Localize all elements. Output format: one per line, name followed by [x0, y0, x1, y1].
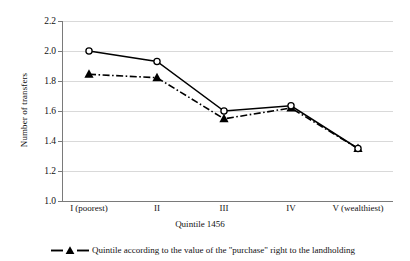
x-tick-label-quintile-3: III [220, 203, 229, 214]
chart-legend: Quintile according to the value of the "… [0, 242, 410, 258]
x-axis-title-wrapper: Quintile 1456 [0, 219, 410, 229]
x-tick-label-quintile-2: II [154, 203, 160, 214]
x-tick-label-quintile-1: I (poorest) [70, 203, 108, 214]
legend-label: Quintile according to the value of the "… [92, 245, 355, 256]
marker-circle-III [221, 108, 227, 114]
marker-circle-I [86, 48, 92, 54]
x-tick-labels: I (poorest) II III IV V (wealthiest) [0, 203, 410, 217]
y-tick-label-2.0: 2.0 [30, 47, 56, 57]
chart-figure: Number of transfers 2.2 2.0 1.8 1.6 1.4 … [0, 0, 410, 261]
legend-entry: Quintile according to the value of the "… [51, 244, 355, 256]
y-tick-label-1.8: 1.8 [30, 77, 56, 87]
marker-circle-IV [288, 103, 294, 109]
y-tick-label-1.6: 1.6 [30, 107, 56, 117]
x-tick-label-quintile-4: IV [286, 203, 296, 214]
legend-marker-dashdot-triangle-icon [51, 244, 89, 256]
x-tick-label-quintile-5: V (wealthiest) [332, 203, 383, 214]
y-tick-label-2.2: 2.2 [30, 17, 56, 27]
y-tick-label-1.4: 1.4 [30, 137, 56, 147]
y-tick-label-1.2: 1.2 [30, 167, 56, 177]
x-axis-title: Quintile 1456 [175, 219, 225, 229]
marker-circle-II [154, 58, 160, 64]
marker-circle-V [355, 145, 361, 151]
